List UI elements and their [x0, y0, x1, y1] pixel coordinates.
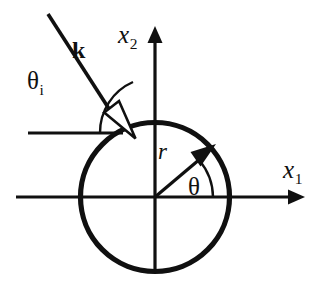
angle-label-theta-i-base: θ — [27, 67, 39, 94]
scattering-geometry-figure: x2 x1 k r θi θ — [0, 0, 328, 285]
axis-label-x1: x1 — [283, 157, 302, 186]
angle-label-theta-i: θi — [27, 68, 44, 97]
angle-label-theta-i-subscript: i — [39, 81, 44, 98]
x1-axis-arrowhead — [288, 190, 305, 205]
axis-label-x1-base: x — [283, 156, 294, 183]
axis-label-x2-base: x — [118, 21, 129, 48]
axis-label-x2: x2 — [118, 22, 137, 51]
radius-label-r: r — [158, 140, 167, 163]
x2-axis-arrowhead — [148, 26, 163, 43]
wave-vector-label-k: k — [72, 38, 85, 62]
k-vector-shaft — [48, 14, 113, 115]
axis-label-x1-subscript: 1 — [294, 170, 302, 187]
axis-label-x2-subscript: 2 — [129, 35, 137, 52]
angle-label-theta: θ — [188, 174, 200, 199]
